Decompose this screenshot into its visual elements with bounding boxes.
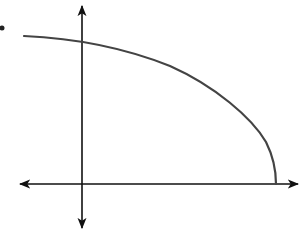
marker-dot xyxy=(0,26,5,31)
graph-canvas xyxy=(0,0,302,231)
curve xyxy=(24,36,276,184)
graph-figure xyxy=(0,0,302,231)
